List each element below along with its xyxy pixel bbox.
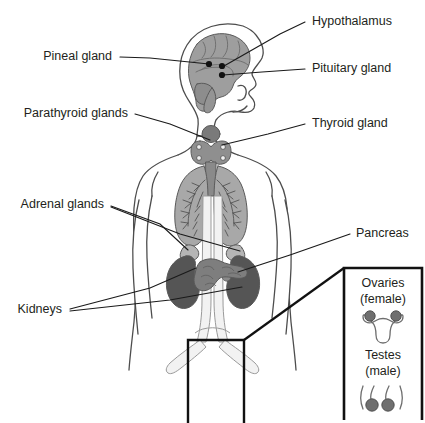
parathyroid-dot bbox=[221, 156, 226, 161]
pituitary-gland-dot bbox=[219, 72, 225, 78]
hypothalamus-dot bbox=[219, 63, 225, 69]
kidney-right bbox=[227, 256, 260, 309]
ovary-right bbox=[391, 311, 401, 321]
label-pancreas: Pancreas bbox=[356, 226, 409, 240]
leader-pancreas bbox=[238, 234, 350, 272]
label-thyroid-gland: Thyroid gland bbox=[312, 116, 388, 130]
inset-panel: Ovaries (female) Testes (male) bbox=[344, 268, 422, 420]
pineal-gland-dot bbox=[206, 61, 212, 67]
larynx bbox=[202, 126, 220, 143]
ear-detail bbox=[238, 85, 246, 100]
inset-box-border bbox=[344, 268, 422, 420]
inset-ovaries-subtitle: (female) bbox=[360, 292, 406, 306]
leader-thyroid-gland bbox=[222, 124, 305, 145]
testis-right bbox=[382, 399, 394, 411]
iliac-left bbox=[166, 340, 206, 374]
label-pineal-gland: Pineal gland bbox=[43, 49, 112, 63]
label-pituitary-gland: Pituitary gland bbox=[312, 61, 391, 75]
iliac-right bbox=[219, 340, 259, 374]
ovary-left bbox=[365, 311, 375, 321]
endocrine-system-diagram: Ovaries (female) Testes (male) bbox=[0, 0, 425, 423]
parathyroid-dot bbox=[197, 156, 202, 161]
inset-ovaries-title: Ovaries bbox=[361, 276, 404, 290]
label-kidneys: Kidneys bbox=[18, 302, 62, 316]
label-adrenal-glands: Adrenal glands bbox=[21, 197, 104, 211]
inset-testes-title: Testes bbox=[365, 348, 401, 362]
testis-left bbox=[366, 399, 378, 411]
parathyroid-dot bbox=[197, 145, 202, 150]
inset-testes-subtitle: (male) bbox=[365, 364, 400, 378]
label-parathyroid-glands: Parathyroid glands bbox=[24, 106, 128, 120]
label-hypothalamus: Hypothalamus bbox=[312, 14, 392, 28]
